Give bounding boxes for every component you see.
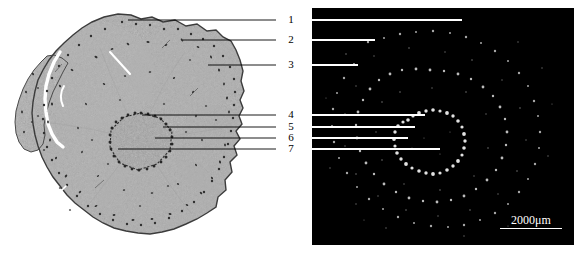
callout-number-2: 2 — [284, 34, 298, 45]
histology-panel — [0, 0, 300, 255]
callout-number-4: 4 — [284, 109, 298, 120]
histology-image — [0, 0, 300, 255]
fluorescence-image — [312, 8, 574, 245]
callout-number-3: 3 — [284, 59, 298, 70]
scientific-figure: 2000μm 1234567 — [0, 0, 578, 255]
fluorescence-background — [312, 8, 574, 245]
fluorescence-panel: 2000μm — [312, 8, 574, 245]
callout-number-7: 7 — [284, 143, 298, 154]
callout-number-1: 1 — [284, 14, 298, 25]
